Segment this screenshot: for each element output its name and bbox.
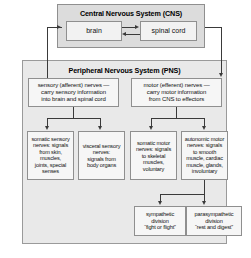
sympathetic-division-label: sympathetic division “fight or flight” [136, 211, 184, 231]
parasympathetic-division-label: parasympathetic division “rest and diges… [188, 211, 240, 231]
sensory-branch-stem [73, 107, 74, 118]
somatic-sensory-box: somatic sensory nerves: signals from ski… [27, 131, 74, 180]
somatic-sensory-arrowhead [45, 126, 49, 130]
motor-nerves-box: motor (efferent) nerves — carry motor in… [131, 78, 222, 107]
somatic-motor-arrowhead [149, 126, 153, 130]
somatic-motor-box: somatic motor nerves: signals to skeleta… [130, 131, 177, 180]
pns-group-title: Peripheral Nervous System (PNS) [23, 67, 226, 75]
brain-box: brain [66, 21, 122, 41]
cns-to-motor-arrowhead [219, 73, 223, 77]
spinal-to-brain-arrowhead [122, 32, 126, 36]
cns-to-motor-vertical [221, 27, 222, 74]
motor-branch-bar [151, 118, 204, 119]
autonomic-motor-arrowhead [202, 126, 206, 130]
sensory-nerves-box: sensory (afferent) nerves — carry sensor… [28, 78, 119, 107]
sensory-nerves-label: sensory (afferent) nerves — carry sensor… [30, 82, 117, 104]
sensory-to-cns-vertical [47, 27, 48, 78]
brain-to-spinal-line [122, 27, 136, 28]
autonomic-motor-label: autonomic motor nerves: signals to smoot… [183, 136, 226, 176]
cns-group-title: Central Nervous System (CNS) [58, 10, 204, 18]
spinal-cord-box: spinal cord [140, 21, 197, 41]
visceral-sensory-label: visceral sensory nerves: signals from bo… [80, 142, 123, 168]
motor-nerves-label: motor (efferent) nerves — carry motor in… [133, 82, 220, 104]
sensory-branch-bar [47, 118, 100, 119]
parasympathetic-division-box: parasympathetic division “rest and diges… [186, 206, 242, 236]
sensory-to-cns-arrowhead [57, 25, 61, 29]
spinal-cord-label: spinal cord [142, 27, 195, 35]
nervous-system-diagram: Central Nervous System (CNS) brain spina… [0, 0, 251, 258]
cns-to-motor-horizontal [205, 27, 222, 28]
visceral-sensory-box: visceral sensory nerves: signals from bo… [78, 131, 125, 180]
somatic-motor-label: somatic motor nerves: signals to skeleta… [132, 139, 175, 172]
somatic-sensory-label: somatic sensory nerves: signals from ski… [29, 136, 72, 176]
autonomic-motor-box: autonomic motor nerves: signals to smoot… [181, 131, 228, 180]
parasympathetic-arrowhead [202, 201, 206, 205]
autonomic-branch-bar [160, 194, 205, 195]
spinal-to-brain-line [126, 34, 140, 35]
brain-label: brain [68, 27, 120, 35]
visceral-sensory-arrowhead [98, 126, 102, 130]
autonomic-branch-stem [204, 180, 205, 194]
motor-branch-stem [176, 107, 177, 118]
sympathetic-arrowhead [158, 201, 162, 205]
brain-to-spinal-arrowhead [135, 25, 139, 29]
sympathetic-division-box: sympathetic division “fight or flight” [134, 206, 186, 236]
